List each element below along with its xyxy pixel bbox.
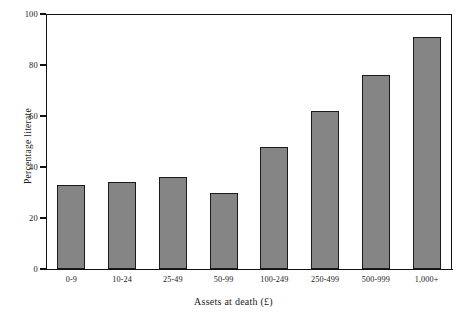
bar — [413, 37, 441, 269]
y-axis-tick — [40, 217, 46, 218]
bar — [311, 111, 339, 269]
y-axis-tick-label: 40 — [29, 163, 38, 172]
y-axis-tick — [40, 115, 46, 116]
plot-area — [46, 14, 452, 269]
y-axis-tick — [40, 64, 46, 65]
y-axis-tick — [40, 166, 46, 167]
y-axis-tick-label: 80 — [29, 61, 38, 70]
y-axis-tick-label: 0 — [34, 265, 38, 274]
bar — [210, 193, 238, 270]
bar — [108, 182, 136, 269]
y-axis-tick-label: 20 — [29, 214, 38, 223]
bar-chart-figure: Percentage literate 020406080100 0-910-2… — [0, 0, 467, 325]
bar — [159, 177, 187, 269]
x-axis-line — [45, 269, 453, 271]
bar — [362, 75, 390, 269]
y-axis-tick-label: 60 — [29, 112, 38, 121]
y-axis-tick-label: 100 — [25, 10, 38, 19]
bar — [260, 147, 288, 269]
y-axis-tick — [40, 268, 46, 269]
x-axis-title: Assets at death (£) — [0, 296, 467, 307]
y-axis-tick — [40, 13, 46, 14]
bar — [57, 185, 85, 269]
x-axis-tick-label: 1,000+ — [392, 275, 462, 285]
y-axis-title: Percentage literate — [23, 76, 33, 216]
